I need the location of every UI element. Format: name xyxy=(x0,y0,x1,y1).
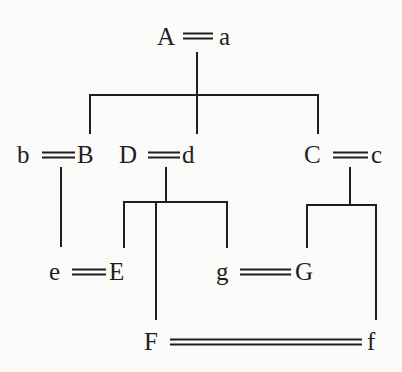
marriage-b-B xyxy=(42,153,75,158)
node-g: g xyxy=(216,259,229,284)
marriage-e-E xyxy=(72,270,106,275)
descent-D-d xyxy=(123,167,228,320)
marriage-g-G xyxy=(240,270,291,275)
node-B: B xyxy=(77,142,94,167)
node-d: d xyxy=(182,142,195,167)
node-b: b xyxy=(17,142,30,167)
node-F: F xyxy=(144,329,158,354)
node-A: A xyxy=(157,24,175,49)
node-C: C xyxy=(304,142,321,167)
marriage-D-d xyxy=(148,153,180,158)
connector-lines xyxy=(0,0,402,372)
genealogy-diagram: A a b B D d C c e E g G F f xyxy=(0,0,402,372)
node-a: a xyxy=(219,24,230,49)
node-e: e xyxy=(49,259,60,284)
node-f: f xyxy=(367,329,375,354)
node-c: c xyxy=(371,142,382,167)
marriage-F-f xyxy=(170,340,362,345)
node-D: D xyxy=(119,142,137,167)
descent-A-a xyxy=(89,52,319,134)
descent-C-c xyxy=(306,167,377,320)
marriage-C-c xyxy=(333,153,368,158)
marriage-A-a xyxy=(183,34,213,39)
node-G: G xyxy=(295,259,313,284)
node-E: E xyxy=(109,259,124,284)
